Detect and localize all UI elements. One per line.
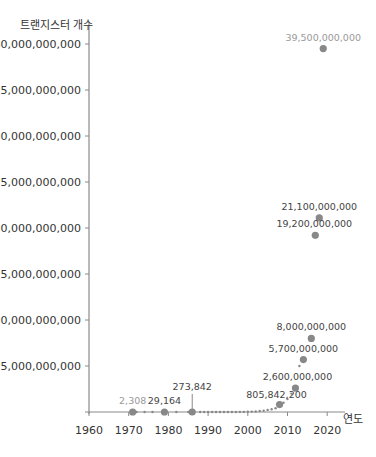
small-data-point xyxy=(251,410,253,412)
data-label: 39,500,000,000 xyxy=(285,32,361,43)
small-data-point xyxy=(255,410,257,412)
x-tick-label: 2020 xyxy=(313,424,341,437)
small-data-point xyxy=(231,411,233,413)
y-tick-label: 35,000,000,000 xyxy=(0,84,81,97)
x-tick-label: 2000 xyxy=(234,424,262,437)
y-tick-label: 15,000,000,000 xyxy=(0,268,81,281)
small-data-point xyxy=(211,411,213,413)
data-label: 2,600,000,000 xyxy=(263,371,333,382)
data-label: 2,308 xyxy=(119,395,146,406)
data-label: 19,200,000,000 xyxy=(277,218,353,229)
small-data-point xyxy=(203,411,205,413)
x-axis: 1960197019801990200020102020 xyxy=(75,412,345,437)
small-data-point xyxy=(259,410,261,412)
y-tick-label: 40,000,000,000 xyxy=(0,38,81,51)
y-tick-label: 5,000,000,000 xyxy=(1,360,81,373)
small-data-point xyxy=(266,409,268,411)
x-tick-label: 2010 xyxy=(274,424,302,437)
small-data-point xyxy=(298,365,300,367)
y-tick-label: 20,000,000,000 xyxy=(0,222,81,235)
data-point xyxy=(320,45,327,52)
data-point xyxy=(312,232,319,239)
small-data-point xyxy=(243,411,245,413)
data-label: 29,164 xyxy=(148,395,181,406)
x-tick-label: 1980 xyxy=(154,424,182,437)
data-point xyxy=(189,408,196,415)
small-data-point xyxy=(215,411,217,413)
transistor-count-chart: 5,000,000,00010,000,000,00015,000,000,00… xyxy=(0,0,376,457)
data-label: 273,842 xyxy=(173,381,212,392)
small-data-point xyxy=(207,411,209,413)
x-tick-label: 1960 xyxy=(75,424,103,437)
x-tick-label: 1990 xyxy=(194,424,222,437)
small-data-point xyxy=(227,411,229,413)
data-point xyxy=(276,401,283,408)
small-data-point xyxy=(270,408,272,410)
y-axis-label: 트랜지스터 개수 xyxy=(20,19,94,32)
small-data-point xyxy=(175,411,177,413)
small-data-point xyxy=(274,407,276,409)
small-data-point xyxy=(199,411,201,413)
data-label: 21,100,000,000 xyxy=(281,201,357,212)
y-axis: 5,000,000,00010,000,000,00015,000,000,00… xyxy=(0,22,89,414)
data-point xyxy=(129,408,136,415)
small-data-point xyxy=(223,411,225,413)
small-data-point xyxy=(219,411,221,413)
y-tick-label: 10,000,000,000 xyxy=(0,314,81,327)
data-label: 5,700,000,000 xyxy=(269,343,339,354)
small-data-point xyxy=(235,411,237,413)
y-tick-label: 25,000,000,000 xyxy=(0,176,81,189)
data-labels: 2,30829,164273,842805,842,2002,600,000,0… xyxy=(119,32,361,409)
data-point xyxy=(308,335,315,342)
small-data-point xyxy=(143,411,145,413)
chart-svg: 5,000,000,00010,000,000,00015,000,000,00… xyxy=(0,0,376,457)
small-data-point xyxy=(262,410,264,412)
x-tick-label: 1970 xyxy=(115,424,143,437)
data-point xyxy=(161,408,168,415)
data-label: 8,000,000,000 xyxy=(277,321,347,332)
small-data-point xyxy=(151,411,153,413)
y-tick-label: 30,000,000,000 xyxy=(0,130,81,143)
data-label: 805,842,200 xyxy=(246,389,306,400)
small-data-point xyxy=(239,411,241,413)
data-point xyxy=(300,356,307,363)
small-data-point xyxy=(247,411,249,413)
x-axis-label: 연도 xyxy=(343,413,363,426)
data-points xyxy=(129,45,327,416)
